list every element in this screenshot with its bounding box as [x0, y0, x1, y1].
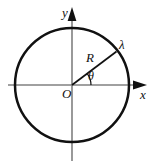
point-label: λ [119, 38, 125, 51]
diagram-canvas [0, 0, 154, 166]
y-axis-arrowhead-icon [68, 7, 77, 21]
y-axis-label: y [62, 6, 68, 19]
x-axis-label: x [140, 88, 146, 101]
radius-label: R [86, 51, 94, 64]
origin-label: O [62, 87, 71, 100]
angle-label: θ [88, 70, 94, 82]
radius-line [72, 52, 117, 86]
circle-angle-diagram: y x O R θ λ [0, 0, 154, 166]
